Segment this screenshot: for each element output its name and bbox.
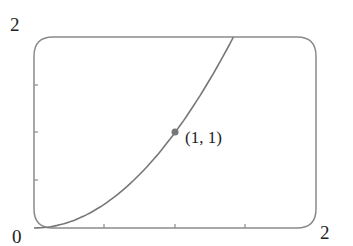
point-1-1 — [172, 129, 179, 136]
origin-label: 0 — [12, 226, 22, 246]
point-label: (1, 1) — [185, 128, 222, 148]
plot-area — [0, 0, 353, 246]
y-max-label: 2 — [10, 14, 20, 36]
x-max-label: 2 — [320, 222, 330, 244]
